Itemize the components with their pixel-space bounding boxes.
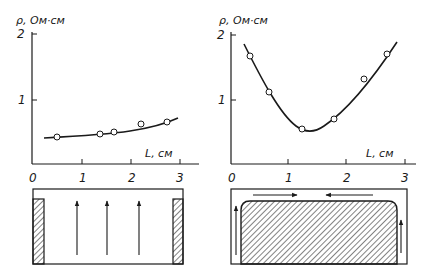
left-x-tick-label-2: 2 xyxy=(128,171,136,185)
data-point xyxy=(331,116,337,122)
right-x-axis-label: L, см xyxy=(366,147,393,160)
figure: 2 1 ρ, Ом·см L, см 0 1 2 3 2 1 ρ, Ом·см … xyxy=(0,0,439,280)
right-chart: 2 1 ρ, Ом·см L, см 0 1 2 3 xyxy=(217,14,416,185)
left-x-tick-label-1: 1 xyxy=(79,171,87,185)
right-y-axis-label: ρ, Ом·см xyxy=(219,14,268,27)
right-contact-hatched xyxy=(173,199,183,264)
right-x-tick-label-1: 1 xyxy=(285,171,293,185)
right-data-points xyxy=(247,51,390,132)
right-y-tick-label-2: 2 xyxy=(217,28,225,42)
left-x-tick-label-3: 3 xyxy=(176,171,184,185)
data-point xyxy=(54,134,60,140)
right-x-tick-label-3: 3 xyxy=(401,171,409,185)
right-fit-curve xyxy=(244,42,397,131)
data-point xyxy=(97,131,103,137)
right-y-tick-label-1: 1 xyxy=(218,93,226,107)
data-point xyxy=(138,121,144,127)
left-chart: 2 1 ρ, Ом·см L, см 0 1 2 3 xyxy=(16,14,199,185)
right-x-tick-label-0: 0 xyxy=(228,171,236,185)
left-sample-diagram xyxy=(33,189,183,264)
data-point xyxy=(164,119,170,125)
data-point xyxy=(111,129,117,135)
data-point xyxy=(384,51,390,57)
right-x-tick-label-2: 2 xyxy=(343,171,351,185)
data-point xyxy=(266,89,272,95)
data-point xyxy=(299,126,305,132)
left-sample-outline xyxy=(33,189,183,264)
central-hatched-region xyxy=(241,201,397,264)
left-y-tick-label-1: 1 xyxy=(18,93,26,107)
data-point xyxy=(247,53,253,59)
left-x-axis-label: L, см xyxy=(145,147,172,160)
left-fit-curve xyxy=(44,118,178,138)
left-x-tick-label-0: 0 xyxy=(29,171,37,185)
left-contact-hatched xyxy=(33,199,44,264)
left-y-axis-label: ρ, Ом·см xyxy=(16,14,65,27)
left-y-tick-label-2: 2 xyxy=(17,27,25,41)
right-sample-diagram xyxy=(231,189,407,264)
data-point xyxy=(361,76,367,82)
